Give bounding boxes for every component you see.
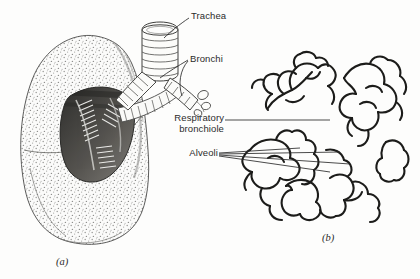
label-respiratory-bronchiole-line2: bronchiole	[158, 124, 224, 135]
label-alveoli: Alveoli	[178, 148, 218, 159]
figure-artwork	[0, 0, 420, 279]
leader-alveoli-1	[219, 148, 300, 153]
label-bronchi: Bronchi	[190, 54, 223, 65]
lung-anatomy-figure: Trachea Bronchi Respiratory bronchiole A…	[0, 0, 420, 279]
panel-label-a: (a)	[56, 256, 68, 267]
label-respiratory-bronchiole-line1: Respiratory	[158, 113, 224, 124]
panel-label-b: (b)	[322, 232, 334, 243]
alveolar-cast-illustration	[242, 52, 408, 222]
label-trachea: Trachea	[191, 11, 226, 22]
